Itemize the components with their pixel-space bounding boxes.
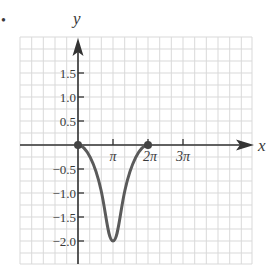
x-axis-label: x: [257, 136, 266, 155]
y-tick-label: −1.0: [52, 186, 76, 201]
y-tick-label: 1.5: [60, 66, 76, 81]
end-point-dot: [144, 141, 152, 149]
y-axis-label: y: [71, 9, 81, 28]
x-tick-label-3pi: 3π: [175, 149, 191, 164]
x-axis: x π 2π 3π: [20, 136, 266, 164]
x-tick-label-pi: π: [109, 149, 117, 164]
y-axis: y 1.5 1.0 0.5 −0.5 −1.0 −1.5 −2.0: [52, 9, 84, 264]
y-tick-label: −2.0: [52, 234, 76, 249]
y-tick-label: 1.0: [60, 90, 76, 105]
bullet-marker: •: [1, 13, 6, 28]
y-tick-label: 0.5: [60, 114, 76, 129]
chart: •: [0, 0, 268, 266]
x-tick-label-2pi: 2π: [143, 149, 158, 164]
y-tick-label: −0.5: [52, 162, 76, 177]
start-point-dot: [74, 141, 82, 149]
grid: [20, 37, 252, 264]
y-tick-label: −1.5: [52, 210, 76, 225]
